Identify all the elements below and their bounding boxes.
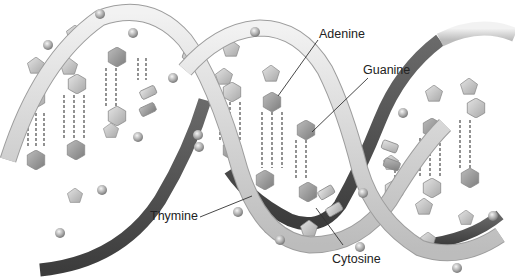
label-cytosine: Cytosine	[332, 253, 381, 266]
label-adenine: Adenine	[319, 28, 365, 41]
dna-helix-diagram	[0, 0, 515, 280]
label-guanine: Guanine	[363, 64, 410, 77]
leader-line-thymine	[200, 196, 252, 217]
label-thymine: Thymine	[150, 210, 198, 223]
base-pair-column	[458, 78, 484, 224]
